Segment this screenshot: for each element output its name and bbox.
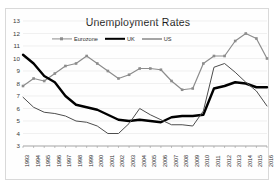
unemployment-rates-chart: Unemployment Rates Eurozone UK US 131211… (0, 0, 276, 187)
series-marker-eurozone (266, 57, 269, 60)
series-marker-eurozone (32, 77, 35, 80)
series-marker-eurozone (54, 72, 57, 75)
series-marker-eurozone (75, 62, 78, 65)
series-line-eurozone (23, 34, 267, 90)
series-marker-eurozone (117, 77, 120, 80)
series-line-us (23, 64, 267, 134)
chart-series-layer (22, 32, 269, 133)
series-marker-eurozone (85, 55, 88, 58)
series-marker-eurozone (202, 62, 205, 65)
series-marker-eurozone (244, 32, 247, 35)
series-marker-eurozone (213, 55, 216, 58)
series-marker-eurozone (255, 37, 258, 40)
series-marker-eurozone (96, 62, 99, 65)
series-marker-eurozone (149, 67, 152, 70)
series-marker-eurozone (160, 68, 163, 71)
series-marker-eurozone (43, 80, 46, 83)
series-marker-eurozone (181, 88, 184, 91)
series-marker-eurozone (223, 55, 226, 58)
series-marker-eurozone (107, 70, 110, 73)
series-marker-eurozone (170, 80, 173, 83)
chart-series-canvas (0, 0, 276, 187)
series-marker-eurozone (64, 65, 67, 68)
series-marker-eurozone (22, 85, 25, 88)
series-marker-eurozone (234, 40, 237, 43)
series-marker-eurozone (138, 67, 141, 70)
series-marker-eurozone (191, 87, 194, 90)
series-marker-eurozone (128, 73, 131, 76)
